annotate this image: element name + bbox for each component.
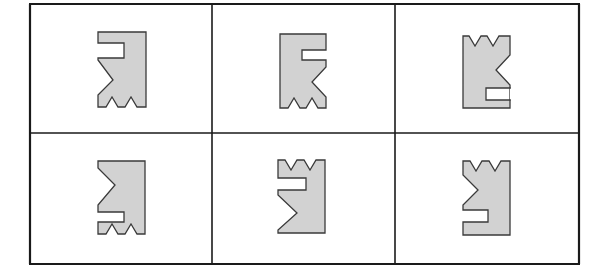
polygon-shape — [98, 161, 145, 234]
shape-cell-2 — [280, 34, 326, 108]
shape-cell-6 — [463, 161, 510, 235]
shape-cell-4 — [98, 161, 145, 234]
notch-cutout — [486, 88, 510, 100]
puzzle-grid — [0, 0, 599, 276]
polygon-shape — [280, 34, 326, 108]
shapes-layer — [30, 4, 579, 264]
polygon-shape — [463, 161, 510, 235]
shape-cell-1 — [98, 32, 146, 107]
polygon-shape — [98, 32, 146, 107]
